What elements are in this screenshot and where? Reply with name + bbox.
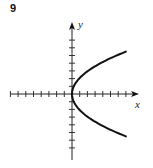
x-axis-label: x bbox=[134, 98, 140, 110]
chart-canvas: x y bbox=[0, 0, 153, 168]
y-axis-label: y bbox=[77, 18, 83, 30]
